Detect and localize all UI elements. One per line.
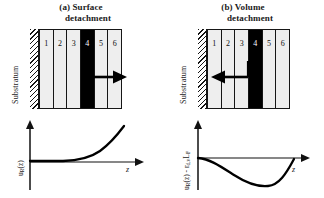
panel-a-plot: uR(z) z xyxy=(8,118,158,194)
panel-b-title: (b) Volume detachment xyxy=(162,2,324,24)
panel-a-y-axis-arrowhead xyxy=(26,120,34,129)
panel-b-detachment-arrow-group xyxy=(198,29,290,109)
panel-a-substratum-label: Substratum xyxy=(11,66,20,104)
panel-a-title: (a) Surface detachment xyxy=(0,2,162,24)
figure-detachment-comparison: (a) Surface detachment Substratum 1 2 3 … xyxy=(0,0,324,198)
panel-a-title-line1: (a) Surface xyxy=(59,2,102,12)
panel-a-axes-and-curve xyxy=(8,118,158,194)
panel-b-axes-and-curve xyxy=(176,118,324,194)
panel-b-x-axis-arrowhead xyxy=(301,154,310,162)
panel-b-title-line2: detachment xyxy=(162,13,324,24)
panel-a-title-line2: detachment xyxy=(0,13,162,24)
panel-b-y-axis-arrowhead xyxy=(194,120,202,129)
panel-a-detachment-arrow-group xyxy=(30,29,122,109)
panel-b-data-curve xyxy=(198,158,294,186)
panel-surface-detachment: (a) Surface detachment Substratum 1 2 3 … xyxy=(0,0,162,198)
panel-a-cell-column-diagram: 1 2 3 4 5 6 xyxy=(30,29,122,109)
arrow-right-icon xyxy=(113,71,127,84)
panel-b-plot: uR(z) - rd,vLF z xyxy=(176,118,324,194)
panel-b-cell-column-diagram: 1 2 3 4 5 6 xyxy=(198,29,290,109)
arrow-left-icon xyxy=(211,71,225,84)
panel-a-data-curve xyxy=(30,126,124,161)
panel-a-x-axis-arrowhead xyxy=(135,158,144,166)
panel-volume-detachment: (b) Volume detachment Substratum 1 2 3 4 xyxy=(162,0,324,198)
panel-b-title-line1: (b) Volume xyxy=(221,2,264,12)
panel-b-substratum-label: Substratum xyxy=(179,66,188,104)
